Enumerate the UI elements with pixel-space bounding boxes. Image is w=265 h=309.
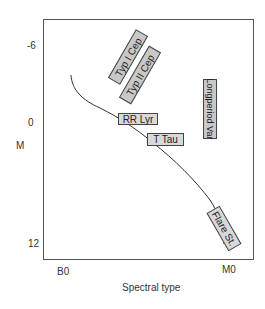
region-longperiod-variables: Longperiod Var <box>203 79 217 139</box>
region-t-tauri: T Tau <box>147 133 184 146</box>
region-rr-lyrae: RR Lyr <box>118 113 158 125</box>
x-tick-m0: M0 <box>222 264 236 275</box>
hr-variable-star-diagram: -6 0 12 M B0 M0 Spectral type Typ I Cep … <box>0 0 265 309</box>
x-tick-b0: B0 <box>57 266 69 277</box>
x-axis-label: Spectral type <box>122 282 180 293</box>
main-sequence-curve <box>71 75 224 244</box>
y-tick-minus6: -6 <box>27 40 36 51</box>
y-tick-12: 12 <box>28 238 39 249</box>
y-tick-0: 0 <box>28 117 34 128</box>
y-axis-label: M <box>16 140 24 151</box>
